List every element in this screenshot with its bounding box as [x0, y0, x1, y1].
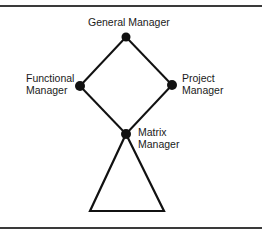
label-general-line1: General Manager — [88, 16, 170, 28]
label-project-line1: Project — [182, 72, 223, 84]
edge-general-project — [126, 37, 172, 85]
label-matrix-line1: Matrix — [138, 126, 179, 138]
node-project-manager — [167, 80, 177, 90]
label-functional-line1: Functional — [26, 72, 74, 84]
node-general-manager — [122, 33, 131, 42]
node-matrix-manager — [121, 129, 131, 139]
label-general-manager: General Manager — [88, 16, 170, 28]
label-functional-line2: Manager — [26, 84, 74, 96]
label-project-line2: Manager — [182, 84, 223, 96]
org-diagram — [0, 0, 262, 231]
label-project-manager: Project Manager — [182, 72, 223, 96]
node-functional-manager — [75, 81, 85, 91]
diagram-frame: General Manager Functional Manager Proje… — [0, 0, 262, 231]
label-functional-manager: Functional Manager — [26, 72, 74, 96]
edge-functional-matrix — [80, 86, 126, 134]
edge-general-functional — [80, 37, 126, 86]
label-matrix-manager: Matrix Manager — [138, 126, 179, 150]
label-matrix-line2: Manager — [138, 138, 179, 150]
